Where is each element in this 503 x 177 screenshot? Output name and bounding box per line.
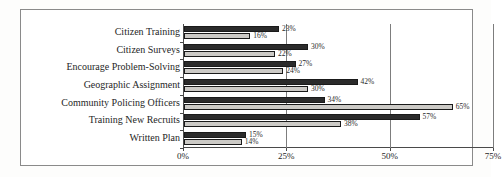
y-axis-tick (180, 113, 183, 114)
x-tick-label-75: 75% (485, 151, 502, 161)
category-label: Community Policing Officers (30, 98, 180, 108)
category-label: Citizen Training (30, 27, 180, 37)
x-tick-label-25: 25% (278, 151, 295, 161)
bar-value-label: 57% (423, 113, 437, 120)
bar-value-label: 22% (278, 50, 292, 57)
gridline-50 (390, 24, 391, 148)
bar (184, 114, 420, 120)
bar (184, 68, 283, 74)
y-axis-tick (180, 95, 183, 96)
bar (184, 61, 296, 67)
y-axis-tick (180, 77, 183, 78)
category-axis-labels: Citizen TrainingCitizen SurveysEncourage… (25, 24, 180, 148)
y-axis-tick (180, 59, 183, 60)
category-label: Geographic Assignment (30, 80, 180, 90)
bar-value-label: 38% (344, 120, 358, 127)
y-axis-tick (180, 42, 183, 43)
y-axis-tick (180, 130, 183, 131)
bar-value-label: 42% (361, 78, 375, 85)
bar (184, 132, 246, 138)
category-label: Written Plan (30, 133, 180, 143)
bar-value-label: 27% (299, 60, 313, 67)
category-label: Encourage Problem-Solving (30, 62, 180, 72)
x-tick-label-0: 0% (177, 151, 189, 161)
gridline-75 (493, 24, 494, 148)
bar (184, 139, 242, 145)
bar (184, 121, 341, 127)
y-axis-tick (180, 148, 183, 149)
x-axis-line (183, 147, 494, 148)
chart-frame: Citizen TrainingCitizen SurveysEncourage… (20, 9, 473, 166)
bar (184, 97, 325, 103)
bar-value-label: 23% (282, 25, 296, 32)
bar-value-label: 30% (311, 85, 325, 92)
bar (184, 79, 358, 85)
x-axis-tick-labels: 0%25%50%75% (183, 151, 503, 165)
bar-value-label: 24% (286, 67, 300, 74)
x-tick-label-50: 50% (381, 151, 398, 161)
bar-value-label: 30% (311, 43, 325, 50)
bar (184, 86, 308, 92)
plot-area: 23%16%30%22%27%24%42%30%34%65%57%38%15%1… (183, 24, 494, 148)
bar (184, 104, 453, 110)
bar (184, 51, 275, 57)
category-label: Training New Recruits (30, 115, 180, 125)
bar-value-label: 34% (328, 96, 342, 103)
category-label: Citizen Surveys (30, 45, 180, 55)
bar (184, 33, 250, 39)
bar-value-label: 65% (456, 103, 470, 110)
bar-value-label: 14% (245, 138, 259, 145)
bar-value-label: 16% (253, 32, 267, 39)
